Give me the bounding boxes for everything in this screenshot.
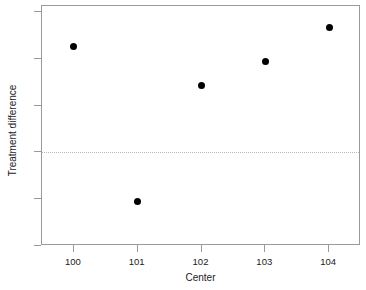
- x-axis-title: Center: [41, 272, 360, 283]
- data-point: [198, 82, 205, 89]
- scatter-plot-figure: 12840-4-8 100101102103104 Treatment diff…: [0, 0, 366, 290]
- x-axis-tick: [264, 245, 265, 252]
- zero-reference-line: [42, 152, 359, 153]
- x-axis-tick: [137, 245, 138, 252]
- x-axis-tick: [328, 245, 329, 252]
- x-axis-tick-label: 104: [308, 256, 348, 267]
- x-axis-tick-label: 100: [53, 256, 93, 267]
- x-axis-tick-label: 101: [117, 256, 157, 267]
- x-axis-tick: [73, 245, 74, 252]
- y-axis-title: Treatment difference: [7, 61, 18, 201]
- data-point: [326, 24, 333, 31]
- y-axis-tick: [34, 105, 41, 106]
- y-axis-tick: [34, 11, 41, 12]
- y-axis-tick: [34, 198, 41, 199]
- data-point: [134, 198, 141, 205]
- x-axis-tick-label: 102: [181, 256, 221, 267]
- y-axis-tick: [34, 245, 41, 246]
- plot-area: [41, 5, 360, 245]
- data-point: [70, 43, 77, 50]
- data-point: [262, 58, 269, 65]
- y-axis-tick: [34, 58, 41, 59]
- x-axis-tick-label: 103: [244, 256, 284, 267]
- y-axis-tick: [34, 151, 41, 152]
- x-axis-tick: [201, 245, 202, 252]
